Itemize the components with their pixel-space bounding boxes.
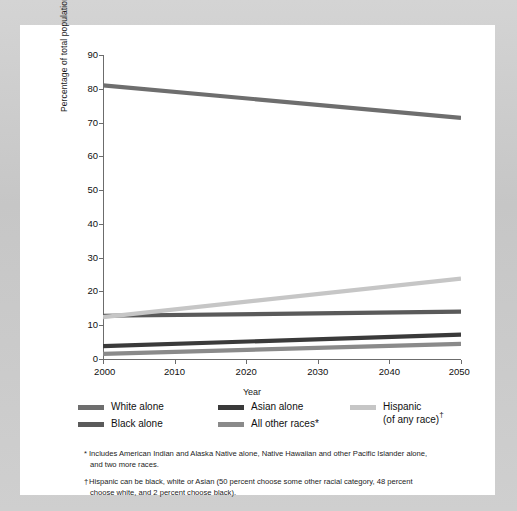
- legend-label: Hispanic(of any race)†: [383, 401, 444, 426]
- figure: Percentage of total population 010203040…: [20, 25, 495, 495]
- page-background: Percentage of total population 010203040…: [0, 0, 517, 511]
- y-tick-label: 80: [87, 83, 98, 94]
- x-axis-title: Year: [73, 387, 431, 397]
- legend-swatch: [218, 405, 244, 410]
- footnotes: *Includes American Indian and Alaska Nat…: [84, 449, 479, 505]
- y-tick-label: 50: [87, 184, 98, 195]
- x-tick-mark: [246, 360, 247, 364]
- y-tick-label: 10: [87, 319, 98, 330]
- x-tick-mark: [103, 360, 104, 364]
- footnote-line-1: Includes American Indian and Alaska Nati…: [89, 449, 479, 460]
- chart-card: Percentage of total population 010203040…: [20, 25, 495, 495]
- x-tick-label: 2000: [94, 366, 115, 377]
- x-tick-label: 2030: [307, 366, 328, 377]
- y-tick-label: 70: [87, 117, 98, 128]
- legend-swatch: [218, 422, 244, 427]
- plot-area: 0102030405060708090 20002010202020302040…: [103, 55, 461, 359]
- x-tick-label: 2040: [379, 366, 400, 377]
- x-tick-label: 2010: [164, 366, 185, 377]
- legend-item-asian-alone[interactable]: Asian alone: [218, 401, 303, 414]
- plot-wrapper: Percentage of total population 010203040…: [73, 43, 473, 383]
- footnote-2: †Hispanic can be black, white or Asian (…: [84, 477, 479, 498]
- legend-item-all-other-races[interactable]: All other races*: [218, 418, 319, 431]
- footnote-line-1: Hispanic can be black, white or Asian (5…: [89, 477, 479, 488]
- legend: White aloneBlack aloneAsian aloneAll oth…: [78, 401, 478, 445]
- legend-item-hispanic[interactable]: Hispanic(of any race)†: [350, 401, 444, 426]
- footnote-line-2: choose white, and 2 percent choose black…: [89, 488, 479, 499]
- x-tick-mark: [318, 360, 319, 364]
- series-line-white-alone: [103, 85, 461, 117]
- y-tick-label: 90: [87, 49, 98, 60]
- legend-item-black-alone[interactable]: Black alone: [78, 418, 163, 431]
- footnote-1: *Includes American Indian and Alaska Nat…: [84, 449, 479, 470]
- footnote-marker: †: [84, 477, 88, 488]
- x-tick-mark: [175, 360, 176, 364]
- x-tick-label: 2020: [236, 366, 257, 377]
- y-tick-label: 60: [87, 150, 98, 161]
- y-tick-label: 20: [87, 285, 98, 296]
- legend-label: Asian alone: [251, 401, 303, 414]
- footnote-line-2: and two more races.: [89, 460, 479, 471]
- y-tick-label: 40: [87, 218, 98, 229]
- x-tick-label: 2050: [449, 366, 470, 377]
- legend-label: All other races*: [251, 418, 319, 431]
- y-tick-label: 0: [93, 353, 98, 364]
- legend-swatch: [78, 405, 104, 410]
- legend-swatch: [350, 405, 376, 410]
- legend-label: White alone: [111, 401, 164, 414]
- legend-swatch: [78, 422, 104, 427]
- legend-label: Black alone: [111, 418, 163, 431]
- x-tick-mark: [389, 360, 390, 364]
- y-axis-title-text: Percentage of total population: [59, 0, 69, 139]
- y-axis-title: Percentage of total population: [59, 0, 69, 139]
- x-axis-line: [103, 359, 461, 360]
- footnote-marker: *: [84, 449, 87, 460]
- legend-item-white-alone[interactable]: White alone: [78, 401, 164, 414]
- x-tick-mark: [461, 360, 462, 364]
- series-lines: [103, 55, 461, 359]
- y-tick-label: 30: [87, 252, 98, 263]
